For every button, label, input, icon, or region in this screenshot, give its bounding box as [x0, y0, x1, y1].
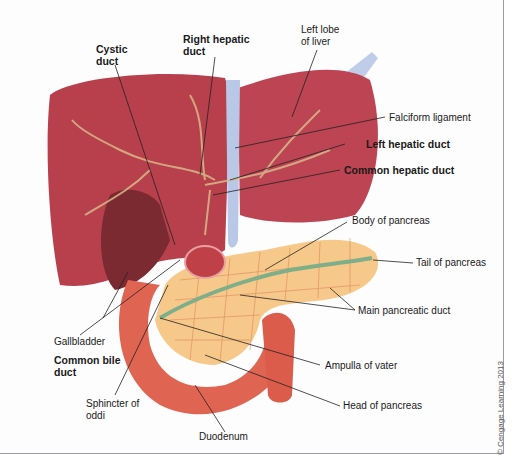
label-duodenum: Duodenum	[199, 431, 248, 443]
label-right-hepatic-duct-line1: Right hepatic	[183, 33, 250, 45]
label-left-hepatic-duct: Left hepatic duct	[366, 138, 450, 150]
left-lobe-liver	[238, 70, 378, 223]
label-cystic-duct-line2: duct	[96, 55, 118, 67]
label-common-hepatic-duct: Common hepatic duct	[344, 164, 454, 176]
anatomy-illustration	[0, 0, 515, 465]
label-left-lobe-line2: of liver	[301, 36, 330, 48]
label-ampulla-of-vater: Ampulla of vater	[325, 360, 397, 372]
label-sphincter-line1: Sphincter of	[86, 398, 139, 410]
label-left-lobe-line1: Left lobe	[301, 24, 339, 36]
label-common-bile-duct-line2: duct	[54, 366, 76, 378]
label-gallbladder: Gallbladder	[54, 336, 105, 348]
falciform-ligament	[226, 80, 240, 248]
label-right-hepatic-duct-line2: duct	[183, 45, 205, 57]
label-head-of-pancreas: Head of pancreas	[343, 400, 422, 412]
label-tail-of-pancreas: Tail of pancreas	[416, 257, 486, 269]
duodenum-loop-right	[262, 313, 295, 403]
label-falciform-ligament: Falciform ligament	[389, 112, 471, 124]
label-main-pancreatic-duct: Main pancreatic duct	[358, 305, 450, 317]
label-body-of-pancreas: Body of pancreas	[352, 215, 430, 227]
label-sphincter-line2: oddi	[86, 410, 105, 422]
label-common-bile-duct-line1: Common bile	[54, 354, 121, 366]
bile-duct-cross-section	[185, 246, 225, 278]
label-cystic-duct-line1: Cystic	[96, 43, 128, 55]
copyright-notice: © Cengage Learning 2013	[496, 361, 505, 455]
